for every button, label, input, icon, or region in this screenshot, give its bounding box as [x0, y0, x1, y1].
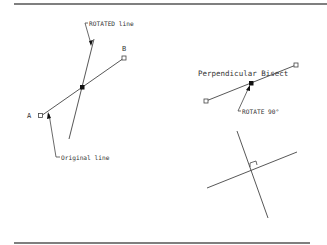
arrowhead-icon: [47, 112, 51, 119]
right-panel: Perpendicular Bisect ROTATE 90°: [198, 63, 298, 218]
original-callout-leader: [49, 114, 60, 157]
diagram-canvas: A B ROTATED line Original line Perpendic…: [0, 0, 327, 245]
right-angle-icon: [250, 161, 257, 167]
arrowhead-icon: [246, 85, 250, 91]
point-a-label: A: [27, 112, 32, 120]
point-b-label: B: [122, 45, 126, 53]
endpoint-right-marker: [294, 63, 298, 67]
midpoint-marker: [80, 85, 85, 90]
rotated-line-callout: ROTATED line: [89, 20, 134, 27]
midpoint-marker: [249, 81, 254, 86]
original-line-callout: Original line: [61, 154, 110, 162]
endpoint-a-marker: [39, 114, 43, 118]
endpoint-left-marker: [204, 99, 208, 103]
endpoint-b-marker: [122, 56, 126, 60]
left-panel: A B ROTATED line Original line: [27, 20, 134, 162]
rotate-90-callout: ROTATE 90°: [242, 108, 279, 115]
bisected-line: [207, 152, 297, 188]
